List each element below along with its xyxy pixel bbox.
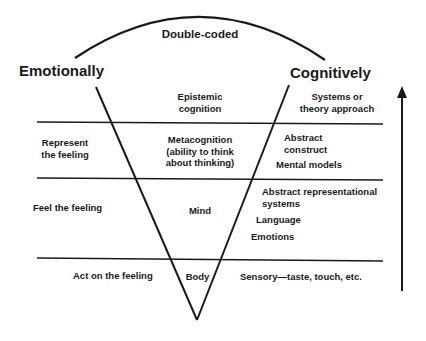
diagram-lines xyxy=(0,0,426,341)
center-body: Body xyxy=(175,271,220,283)
left-feel-feeling: Feel the feeling xyxy=(33,202,102,214)
left-represent-feeling: Represent the feeling xyxy=(20,137,110,160)
center-epistemic-cognition: Epistemic cognition xyxy=(150,91,250,114)
center-metacognition: Metacognition (ability to think about th… xyxy=(145,134,255,169)
right-abstract-representational: Abstract representational systems xyxy=(262,186,377,209)
center-mind: Mind xyxy=(170,205,230,217)
divider-line-3 xyxy=(37,258,383,261)
right-abstract-construct: Abstract construct xyxy=(284,132,327,155)
right-emotions: Emotions xyxy=(251,231,294,243)
right-language: Language xyxy=(256,214,301,226)
title-double-coded: Double-coded xyxy=(150,28,250,41)
divider-line-2 xyxy=(37,178,383,180)
divider-line-1 xyxy=(37,122,383,124)
header-emotionally: Emotionally xyxy=(19,62,104,79)
left-act-on-feeling: Act on the feeling xyxy=(73,270,153,282)
header-cognitively: Cognitively xyxy=(290,64,371,81)
up-arrow-icon xyxy=(397,86,407,98)
right-systems-theory: Systems or theory approach xyxy=(292,91,382,114)
right-sensory: Sensory—taste, touch, etc. xyxy=(240,271,362,283)
v-left-edge xyxy=(96,87,197,320)
right-mental-models: Mental models xyxy=(276,159,342,171)
